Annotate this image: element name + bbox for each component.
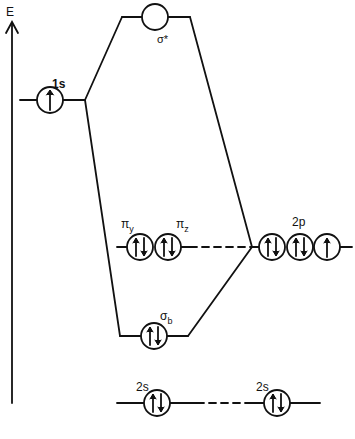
- label-pi-z: πz: [176, 218, 189, 230]
- label-1s: 1s: [52, 78, 65, 90]
- label-2s-left: 2s: [136, 381, 149, 393]
- label-sigma-b: σb: [160, 310, 172, 322]
- label-pi-y: πy: [121, 218, 134, 230]
- orbital-pi-nonbonding: [117, 234, 252, 260]
- pi-y-box: [127, 234, 153, 260]
- label-sigma-star: σ*: [157, 34, 168, 45]
- orbital-2p: [252, 234, 352, 260]
- label-2s-right: 2s: [256, 381, 269, 393]
- energy-axis: [6, 22, 18, 403]
- label-2p: 2p: [292, 216, 305, 228]
- orbital-sigma-b: [120, 323, 188, 349]
- pi-z-box: [155, 234, 181, 260]
- correlation-lines: [85, 17, 252, 336]
- axis-label-energy: E: [6, 6, 14, 18]
- mo-diagram: E 1s σ* πy πz 2p σb 2s 2s: [0, 0, 355, 439]
- orbital-sigma-star: [122, 4, 190, 30]
